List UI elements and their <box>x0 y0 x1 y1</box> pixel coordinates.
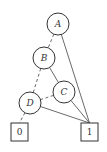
node-label: 1 <box>87 127 93 137</box>
variable-node-d: D <box>19 92 41 114</box>
edge-d-to-t1-solid <box>40 107 89 123</box>
variable-node-c: C <box>53 81 75 103</box>
variable-node-b: B <box>33 47 55 69</box>
edge-a-to-b-dashed <box>48 34 54 48</box>
node-label: B <box>40 53 48 63</box>
edge-b-to-d-dashed <box>33 69 40 93</box>
edge-b-to-c-solid <box>50 67 59 82</box>
node-label: A <box>54 19 62 29</box>
edge-c-to-d-dashed <box>40 95 53 99</box>
node-label: C <box>61 87 68 97</box>
terminal-node-1: 1 <box>81 123 98 141</box>
bdd-diagram: ABCD01 <box>0 0 107 152</box>
terminal-node-0: 0 <box>11 123 28 141</box>
node-label: 0 <box>17 127 23 137</box>
edge-d-to-t0-dashed <box>20 113 25 123</box>
variable-node-a: A <box>47 13 69 35</box>
node-label: D <box>25 98 33 108</box>
edge-a-to-t1-solid <box>61 34 89 123</box>
